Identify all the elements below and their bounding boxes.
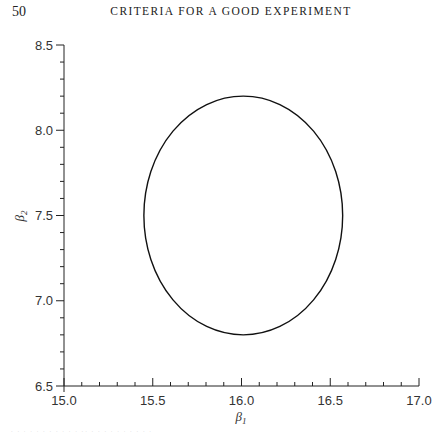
caption-text: · · · · · · · · · · · ·· · · · · · · · ·… (0, 431, 448, 436)
y-tick-label: 7.5 (35, 208, 53, 223)
x-tick-label: 17.0 (406, 393, 431, 408)
x-tick-label: 16.0 (229, 393, 254, 408)
y-axis-title: β2 (12, 210, 29, 222)
confidence-ellipse (144, 96, 343, 335)
y-tick-label: 8.0 (35, 123, 53, 138)
y-tick-label: 6.5 (35, 379, 53, 394)
clipped-caption: · · · · · · · · · · · ·· · · · · · · · ·… (0, 431, 448, 436)
x-tick-label: 15.5 (140, 393, 165, 408)
y-tick-label: 7.0 (35, 293, 53, 308)
x-axis-title: β1 (235, 409, 247, 426)
ellipse-chart: 6.57.07.58.08.5 15.015.516.016.517.0 β1 … (0, 0, 448, 436)
x-axis: 15.015.516.016.517.0 (51, 378, 431, 408)
y-tick-label: 8.5 (35, 38, 53, 53)
x-tick-label: 15.0 (51, 393, 76, 408)
x-tick-label: 16.5 (318, 393, 343, 408)
y-axis: 6.57.07.58.08.5 (35, 38, 64, 394)
